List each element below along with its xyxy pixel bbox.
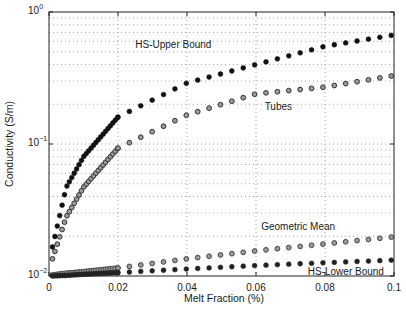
data-point [264, 247, 269, 252]
data-point [298, 244, 303, 249]
data-point [218, 253, 223, 258]
data-point [138, 103, 143, 108]
series-hs-upper-bound [50, 33, 394, 249]
data-point [116, 115, 121, 120]
data-point [184, 81, 189, 86]
data-point [229, 264, 234, 269]
data-point [355, 39, 360, 44]
data-point [389, 235, 394, 240]
data-point [218, 265, 223, 270]
data-point [138, 263, 143, 268]
data-point [195, 255, 200, 260]
data-point [161, 92, 166, 97]
data-point [321, 85, 326, 90]
data-point [286, 53, 291, 58]
data-point [252, 92, 257, 97]
data-point [229, 69, 234, 74]
data-point [52, 249, 57, 254]
data-point [52, 234, 57, 239]
annotation-label: Tubes [265, 101, 292, 112]
data-point [355, 79, 360, 84]
data-point [55, 242, 60, 247]
data-point [264, 263, 269, 268]
data-point [309, 86, 314, 91]
annotation-label: HS-Lower Bound [308, 266, 384, 277]
data-point [389, 74, 394, 79]
data-point [321, 242, 326, 247]
data-point [207, 265, 212, 270]
data-point [321, 44, 326, 49]
data-point [241, 66, 246, 71]
x-tick-label: 0.08 [315, 282, 334, 293]
data-point [286, 245, 291, 250]
data-point [161, 124, 166, 129]
data-point [173, 258, 178, 263]
data-point [377, 236, 382, 241]
data-point [57, 234, 62, 239]
data-point [343, 40, 348, 45]
y-tick-label: 100 [28, 3, 43, 16]
data-point [62, 192, 67, 197]
data-point [366, 237, 371, 242]
data-point [343, 81, 348, 86]
y-tick-label: 10−2 [28, 267, 47, 280]
data-point [275, 246, 280, 251]
data-point [309, 47, 314, 52]
data-point [150, 98, 155, 103]
annotation-label: HS-Upper Bound [135, 39, 211, 50]
data-point [366, 259, 371, 264]
data-point [343, 260, 348, 265]
data-point [252, 62, 257, 67]
data-point [150, 261, 155, 266]
data-point [229, 99, 234, 104]
data-point [332, 241, 337, 246]
data-point [173, 267, 178, 272]
data-point [332, 42, 337, 47]
x-axis-label: Melt Fraction (%) [184, 292, 264, 304]
data-point [116, 146, 121, 151]
data-point [332, 260, 337, 265]
data-point [150, 268, 155, 273]
data-point [161, 268, 166, 273]
data-point [55, 224, 60, 229]
data-point [150, 129, 155, 134]
x-tick-label: 0.1 [387, 282, 401, 293]
data-point [241, 264, 246, 269]
data-point [264, 90, 269, 95]
data-point [138, 135, 143, 140]
data-point [286, 88, 291, 93]
data-point [298, 50, 303, 55]
data-point [309, 261, 314, 266]
data-point [321, 260, 326, 265]
data-point [207, 254, 212, 259]
data-point [60, 227, 65, 232]
data-point [127, 109, 132, 114]
data-point [377, 258, 382, 263]
data-point [218, 102, 223, 107]
data-point [207, 106, 212, 111]
data-point [389, 258, 394, 263]
data-point [116, 266, 121, 271]
data-point [332, 83, 337, 88]
data-point [389, 33, 394, 38]
data-point [286, 262, 291, 267]
data-point [173, 118, 178, 123]
annotation-label: Geometric Mean [261, 221, 335, 232]
data-point [127, 270, 132, 275]
y-tick-label: 10−1 [28, 135, 47, 148]
data-point [184, 267, 189, 272]
data-point [252, 249, 257, 254]
data-point [161, 260, 166, 265]
data-points [50, 33, 394, 278]
data-point [355, 259, 360, 264]
grid-lines [49, 12, 394, 276]
data-point [50, 245, 55, 250]
data-point [62, 220, 67, 225]
data-point [275, 89, 280, 94]
data-point [275, 262, 280, 267]
series-tubes [50, 74, 394, 262]
data-point [252, 263, 257, 268]
data-point [275, 56, 280, 61]
data-point [207, 75, 212, 80]
data-point [241, 250, 246, 255]
